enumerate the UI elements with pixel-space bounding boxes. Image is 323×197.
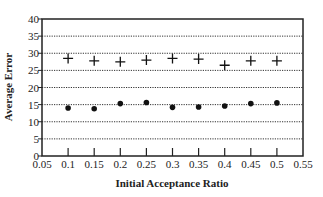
plus-marker (63, 53, 73, 63)
plus-marker (246, 56, 256, 66)
x-tick-label: 0.1 (61, 158, 75, 170)
scatter-chart: 0510152025303540 0.050.10.150.20.250.30.… (0, 0, 323, 197)
dot-marker (91, 106, 97, 112)
y-tick-label: 20 (28, 82, 40, 94)
plus-marker (168, 53, 178, 63)
dot-marker (118, 101, 124, 107)
y-axis-ticks: 0510152025303540 (28, 13, 42, 162)
x-tick-label: 0.45 (241, 158, 261, 170)
plus-marker (194, 54, 204, 64)
dot-marker (248, 101, 254, 107)
data-points (63, 53, 282, 111)
x-tick-label: 0.4 (218, 158, 232, 170)
x-axis-label: Initial Acceptance Ratio (115, 177, 229, 189)
x-axis-ticks: 0.050.10.150.20.250.30.350.40.450.50.55 (32, 148, 313, 170)
plus-marker (272, 56, 282, 66)
dot-marker (144, 100, 150, 106)
x-tick-label: 0.05 (32, 158, 52, 170)
x-tick-label: 0.25 (137, 158, 157, 170)
x-tick-label: 0.5 (270, 158, 284, 170)
x-tick-label: 0.35 (189, 158, 209, 170)
y-tick-label: 30 (28, 47, 40, 59)
y-tick-label: 10 (28, 116, 40, 128)
y-tick-label: 40 (28, 13, 40, 25)
x-tick-label: 0.2 (113, 158, 127, 170)
plus-marker (220, 60, 230, 70)
dot-marker (65, 105, 71, 111)
plus-marker (89, 56, 99, 66)
x-tick-label: 0.3 (166, 158, 180, 170)
dot-marker (274, 100, 280, 106)
x-tick-label: 0.55 (293, 158, 313, 170)
y-tick-label: 15 (28, 99, 40, 111)
dot-marker (222, 103, 228, 109)
y-axis-label: Average Error (2, 53, 14, 121)
y-tick-label: 25 (28, 64, 40, 76)
plus-marker (115, 57, 125, 67)
y-tick-label: 35 (28, 30, 40, 42)
dot-marker (196, 104, 202, 110)
y-tick-label: 5 (34, 133, 40, 145)
plus-marker (141, 55, 151, 65)
gridlines (42, 36, 303, 139)
x-tick-label: 0.15 (85, 158, 105, 170)
dot-marker (170, 105, 176, 111)
